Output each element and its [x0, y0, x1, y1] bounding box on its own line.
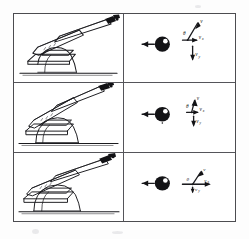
velocity-vector-diagram: v v x v y θ — [124, 153, 235, 221]
projectile-shell-icon — [155, 176, 170, 190]
horizontal-sub: x — [202, 110, 205, 114]
projectile-shell-icon — [155, 37, 170, 52]
horizontal-sub: x — [206, 180, 209, 184]
artillery-gun-icon — [14, 14, 123, 82]
scan-speck — [195, 5, 201, 8]
velocity-vector-diagram: v v x v y θ — [124, 14, 235, 82]
gun-panel-3[interactable] — [14, 153, 124, 221]
panel-grid: v v x v y θ — [14, 14, 235, 221]
vector-panel-3[interactable]: v v x v y θ — [124, 153, 235, 221]
figure-row: v v x v y θ — [14, 14, 235, 83]
scan-speck — [32, 229, 39, 234]
angle-label: θ — [187, 175, 190, 181]
artillery-gun-icon — [14, 83, 123, 151]
angle-label: θ — [186, 104, 189, 110]
figure-row: v v x v y θ — [14, 83, 235, 152]
angle-label: θ — [183, 30, 186, 36]
artillery-gun-icon — [14, 153, 123, 221]
vector-panel-1[interactable]: v v x v y θ — [124, 14, 235, 82]
scan-speck — [112, 231, 123, 234]
gun-panel-1[interactable] — [14, 14, 124, 82]
vertical-sub: y — [197, 55, 200, 59]
figure-root: v v x v y θ — [0, 0, 249, 239]
vertical-sub: y — [198, 122, 201, 126]
vertical-sub: y — [197, 189, 200, 193]
resultant-label: v — [197, 95, 200, 101]
vector-panel-2[interactable]: v v x v y θ — [124, 83, 235, 151]
projectile-shell-icon — [155, 107, 170, 122]
figure-row: v v x v y θ — [14, 153, 235, 221]
resultant-label: v — [203, 166, 206, 172]
resultant-label: v — [200, 18, 203, 24]
figure-frame: v v x v y θ — [13, 13, 236, 222]
gun-panel-2[interactable] — [14, 83, 124, 151]
horizontal-sub: x — [201, 37, 204, 41]
velocity-vector-diagram: v v x v y θ — [124, 83, 235, 151]
